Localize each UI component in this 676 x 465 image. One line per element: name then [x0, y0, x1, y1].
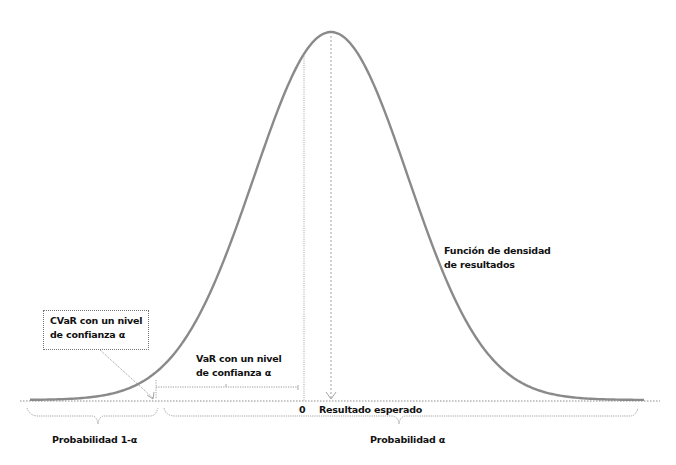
curve-label: Función de densidad de resultados	[444, 244, 551, 272]
curve-label-line1: Función de densidad	[444, 244, 551, 258]
cvar-callout-box: CVaR con un nivel de confianza α	[43, 310, 149, 350]
cvar-label-line2: de confianza α	[50, 328, 148, 342]
var-label: VaR con un nivel de confianza α	[196, 352, 282, 380]
var-label-line1: VaR con un nivel	[196, 352, 282, 366]
diagram-canvas	[0, 0, 676, 465]
var-label-line2: de confianza α	[196, 366, 282, 380]
curve-label-line2: de resultados	[444, 258, 551, 272]
left-probability-label: Probabilidad 1-α	[52, 433, 137, 447]
expected-result-label: Resultado esperado	[319, 403, 422, 417]
cvar-label-line1: CVaR con un nivel	[50, 314, 148, 328]
zero-label: 0	[299, 403, 305, 417]
cvar-pointer-line	[100, 350, 153, 398]
right-probability-label: Probabilidad α	[370, 433, 445, 447]
left-probability-brace	[27, 408, 158, 424]
var-cvar-diagram: Función de densidad de resultados CVaR c…	[0, 0, 676, 465]
